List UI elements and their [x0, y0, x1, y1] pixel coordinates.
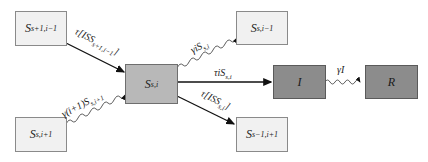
- label-to-infected: τiSs,i: [214, 67, 232, 81]
- node-base: I: [298, 75, 302, 90]
- node-s-plus1-i-minus1: Ss+1,i−1: [15, 11, 67, 46]
- node-sub: s−1,i+1: [252, 130, 278, 139]
- node-sub: s+1,i−1: [31, 24, 57, 33]
- arrow-recovery: [325, 80, 360, 84]
- node-recovered: R: [365, 65, 418, 99]
- node-s-i-minus1: Ss,i−1: [236, 11, 288, 45]
- node-s-i-plus1: Ss,i+1: [15, 117, 67, 152]
- node-sub: s,i: [151, 80, 158, 89]
- node-sub: s,i−1: [257, 24, 274, 33]
- node-s-minus1-i-plus1: Ss−1,i+1: [236, 117, 288, 152]
- node-base: R: [388, 75, 395, 90]
- node-sub: s,i+1: [36, 130, 53, 139]
- label-infected-to-recovered: γI: [337, 64, 344, 75]
- node-s-i: Ss,i: [125, 64, 178, 104]
- node-infected: I: [273, 65, 326, 99]
